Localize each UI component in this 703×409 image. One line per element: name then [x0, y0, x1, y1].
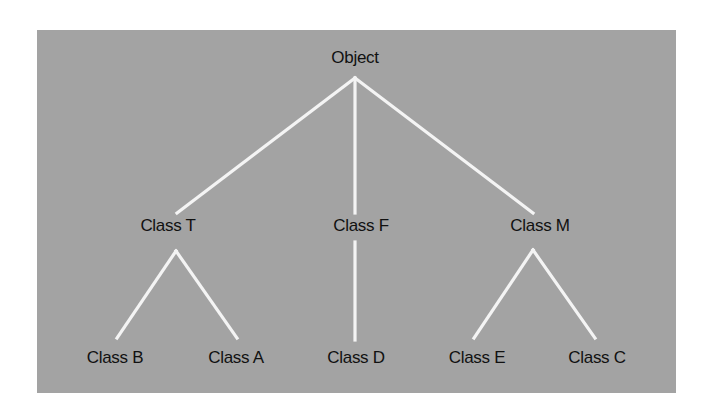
edge-object-classT — [177, 78, 355, 213]
node-class-d: Class D — [327, 348, 384, 368]
node-class-f: Class F — [333, 216, 389, 236]
node-object: Object — [331, 48, 378, 68]
node-class-c: Class C — [568, 348, 625, 368]
node-class-m: Class M — [510, 216, 569, 236]
node-class-b: Class B — [87, 348, 143, 368]
node-class-a: Class A — [208, 348, 264, 368]
edge-classT-classA — [176, 251, 237, 338]
node-class-e: Class E — [449, 348, 505, 368]
edge-classT-classB — [117, 251, 176, 338]
edge-classM-classE — [474, 250, 533, 338]
edge-classM-classC — [533, 250, 595, 338]
node-class-t: Class T — [140, 216, 195, 236]
edge-object-classM — [355, 78, 533, 213]
